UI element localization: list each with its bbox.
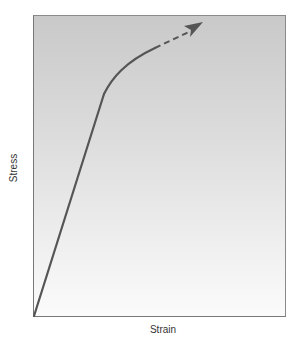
dashed-continuation <box>155 30 193 48</box>
x-axis-label: Strain <box>133 324 193 335</box>
elastic-line <box>34 94 104 316</box>
plastic-curve <box>104 48 155 94</box>
arrow-head-icon <box>184 22 203 37</box>
stress-strain-curve <box>0 0 303 347</box>
y-axis-label: Stress <box>8 148 22 188</box>
stress-strain-diagram: Stress Strain <box>0 0 303 347</box>
